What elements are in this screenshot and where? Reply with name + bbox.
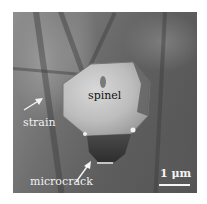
micrograph-image [13, 12, 197, 193]
spinel-particle-graphic [13, 12, 197, 193]
microcrack-label: microcrack [30, 176, 93, 187]
spinel-label: spinel [88, 90, 121, 101]
particle-defect [100, 76, 106, 88]
bright-spot [83, 132, 87, 136]
scale-bar-label: 1 μm [160, 168, 191, 179]
microcrack-arrowhead [84, 161, 91, 169]
strain-arrowhead [35, 98, 43, 105]
strain-label: strain [23, 117, 55, 128]
bright-spot [131, 128, 136, 133]
particle-cavity [87, 134, 131, 162]
scale-bar [159, 184, 190, 186]
